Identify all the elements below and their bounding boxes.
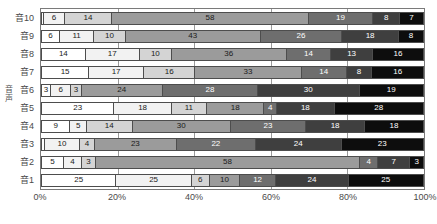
bar-row: 614581987: [41, 12, 424, 25]
bar-segment: 11: [60, 30, 95, 43]
bar-value-label: 4: [268, 104, 272, 112]
bar-value-label: 6: [59, 86, 63, 94]
bar-segment: 28: [163, 84, 258, 97]
bar-segment: 14: [41, 48, 86, 61]
bar-segment: 28: [335, 102, 424, 115]
bar-value-label: 18: [390, 122, 399, 130]
bar-value-label: 14: [319, 68, 328, 76]
bar-value-label: 13: [347, 50, 356, 58]
x-axis-tick-label: 0%: [33, 192, 46, 202]
bar-segment: 11: [172, 102, 207, 115]
bar-value-label: 14: [59, 50, 68, 58]
bar-segment: 18: [114, 102, 171, 115]
bar-segment: 10: [210, 174, 240, 187]
category-axis: 音10音9音8音7音6音5音4音3音2音1: [0, 8, 38, 188]
bar-segment: 30: [258, 84, 360, 97]
bar-value-label: 30: [177, 122, 186, 130]
bar-value-label: 30: [304, 86, 313, 94]
bar-segment: 10: [140, 48, 172, 61]
bar-value-label: 16: [165, 68, 174, 76]
bar-segment: 4: [360, 156, 378, 169]
bar-value-label: 15: [61, 68, 70, 76]
bar-segment: 4: [80, 138, 94, 151]
bar-value-label: 25: [149, 176, 158, 184]
bar-segment: 6: [192, 174, 210, 187]
bar-value-label: 5: [50, 158, 54, 166]
bar-segment: 16: [373, 48, 424, 61]
bar-value-label: 19: [387, 86, 396, 94]
bar-segment: 30: [133, 120, 231, 133]
bar-segment: 16: [144, 66, 195, 79]
bar-value-label: 36: [224, 50, 233, 58]
bar-value-label: 16: [393, 68, 402, 76]
bar-value-label: 23: [378, 140, 387, 148]
bar-value-label: 18: [231, 104, 240, 112]
bar-segment: 8: [373, 12, 400, 25]
bar-segment: 24: [256, 138, 342, 151]
bar-row: 1517163314816: [41, 66, 424, 79]
bar-segment: 24: [276, 174, 348, 187]
bar-segment: 25: [41, 174, 116, 187]
bar-segment: 23: [41, 102, 114, 115]
bar-value-label: 7: [409, 14, 413, 22]
bar-value-label: 5: [76, 122, 80, 130]
bar-segment: 15: [41, 66, 89, 79]
bar-row: 611104326188: [41, 30, 424, 43]
bar-value-label: 6: [198, 176, 202, 184]
bar-value-label: 19: [336, 14, 345, 22]
x-axis-tick-label: 40%: [185, 192, 203, 202]
bar-value-label: 14: [304, 50, 313, 58]
bar-value-label: 58: [205, 14, 214, 22]
bar-segment: 58: [96, 156, 360, 169]
bar-segment: 24: [82, 84, 163, 97]
bar-segment: 6: [44, 12, 64, 25]
bar-segment: 14: [287, 48, 332, 61]
category-label: 音8: [0, 44, 38, 62]
category-label: 音1: [0, 170, 38, 188]
bar-value-label: 18: [138, 104, 147, 112]
plot-area: 6145819876111043261881417103614131615171…: [40, 8, 425, 190]
bar-value-label: 4: [70, 158, 74, 166]
bar-value-label: 14: [83, 14, 92, 22]
category-label: 音7: [0, 62, 38, 80]
bar-value-label: 10: [105, 32, 114, 40]
bar-value-label: 25: [381, 176, 390, 184]
bar-value-label: 18: [331, 122, 340, 130]
bar-value-label: 4: [85, 140, 89, 148]
bar-value-label: 6: [52, 14, 56, 22]
bar-value-label: 9: [54, 122, 58, 130]
bar-value-label: 18: [301, 104, 310, 112]
bar-value-label: 16: [393, 50, 402, 58]
bar-segment: 6: [51, 84, 71, 97]
bar-segment: 23: [342, 138, 424, 151]
bar-segment: 58: [112, 12, 309, 25]
bar-value-label: 17: [112, 68, 121, 76]
bar-segment: 6: [41, 30, 60, 43]
bar-segment: 13: [331, 48, 372, 61]
category-label: 音5: [0, 98, 38, 116]
bar-value-label: 11: [72, 32, 80, 40]
bar-value-label: 8: [384, 14, 388, 22]
bar-segment: 36: [172, 48, 287, 61]
bar-value-label: 8: [357, 68, 361, 76]
bar-segment: 3: [41, 84, 51, 97]
bar-value-label: 8: [409, 32, 413, 40]
bar-segment: 25: [349, 174, 424, 187]
bar-value-label: 10: [220, 176, 229, 184]
bar-rows: 6145819876111043261881417103614131615171…: [41, 9, 424, 189]
bar-value-label: 28: [374, 104, 383, 112]
bar-segment: 7: [400, 12, 424, 25]
bar-row: 36324283019: [41, 84, 424, 97]
bar-segment: 25: [116, 174, 191, 187]
bar-segment: 12: [240, 174, 276, 187]
bar-segment: 18: [207, 102, 264, 115]
bar-value-label: 28: [205, 86, 214, 94]
bar-segment: 14: [65, 12, 112, 25]
bar-value-label: 22: [211, 140, 220, 148]
bar-value-label: 11: [185, 104, 193, 112]
bar-segment: 18: [342, 30, 399, 43]
bar-segment: 3: [71, 84, 81, 97]
bar-value-label: 58: [223, 158, 232, 166]
bar-segment: 14: [302, 66, 347, 79]
bar-segment: 19: [309, 12, 373, 25]
